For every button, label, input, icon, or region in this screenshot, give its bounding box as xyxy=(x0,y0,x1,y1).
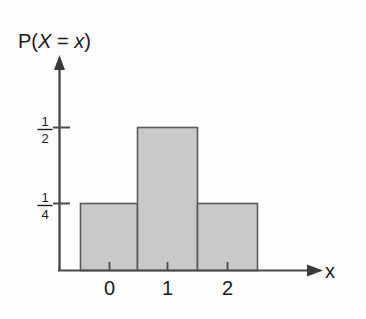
y-tick-label-one-half-denominator: 2 xyxy=(41,131,48,146)
x-axis-arrowhead xyxy=(307,265,323,277)
y-axis-ticks xyxy=(53,128,70,204)
y-axis-label: P(X = x) xyxy=(18,30,91,52)
y-tick-label-one-half-numerator: 1 xyxy=(41,114,48,129)
x-tick-label-0: 0 xyxy=(104,277,115,299)
bar-series xyxy=(81,128,258,271)
x-axis-label: x xyxy=(325,260,335,282)
y-tick-label-one-half: 1 2 xyxy=(38,114,53,146)
x-tick-label-1: 1 xyxy=(162,277,173,299)
bar-category-2 xyxy=(198,204,258,271)
x-tick-label-2: 2 xyxy=(222,277,233,299)
x-axis-tick-labels: 0 1 2 xyxy=(104,277,233,299)
y-tick-label-one-quarter-denominator: 4 xyxy=(41,207,48,222)
chart-canvas: 1 2 1 4 0 1 2 P(X = x) x xyxy=(0,0,366,319)
probability-bar-chart-figure: 1 2 1 4 0 1 2 P(X = x) x xyxy=(0,0,366,319)
bar-category-0 xyxy=(81,204,138,271)
y-axis-arrowhead xyxy=(54,55,65,70)
y-axis xyxy=(54,55,65,271)
y-axis-label-suffix: ) xyxy=(84,30,91,52)
bar-category-1 xyxy=(138,128,198,271)
y-axis-label-prefix: P( xyxy=(18,30,38,52)
y-tick-label-one-quarter: 1 4 xyxy=(38,190,53,222)
y-axis-label-equals: = xyxy=(51,30,74,52)
y-tick-label-one-quarter-numerator: 1 xyxy=(41,190,48,205)
y-axis-label-random-variable: X xyxy=(37,30,52,52)
